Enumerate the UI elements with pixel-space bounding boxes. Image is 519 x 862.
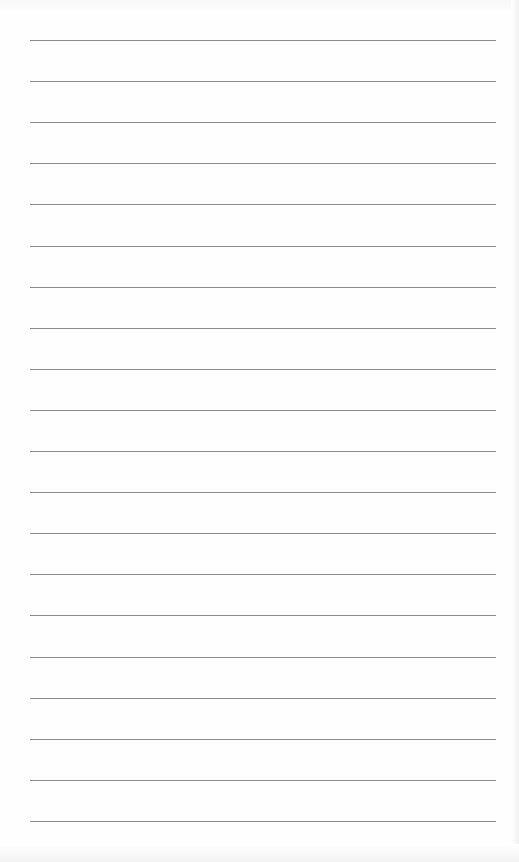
ruled-line [30,739,496,740]
ruled-line [30,40,496,41]
ruled-line [30,122,496,123]
ruled-line [30,574,496,575]
ruled-line [30,615,496,616]
ruled-line [30,657,496,658]
ruled-line [30,533,496,534]
ruled-line [30,410,496,411]
ruled-line [30,369,496,370]
top-shading [0,0,519,14]
ruled-line [30,204,496,205]
lined-paper-sheet [0,0,519,862]
ruled-line [30,287,496,288]
ruled-line [30,328,496,329]
ruled-line [30,698,496,699]
ruled-line [30,451,496,452]
bottom-shading [0,844,519,862]
ruled-line [30,81,496,82]
right-edge-shading [511,0,519,862]
ruled-line [30,780,496,781]
ruled-line [30,246,496,247]
ruled-line [30,492,496,493]
ruled-line [30,163,496,164]
ruled-line [30,821,496,822]
